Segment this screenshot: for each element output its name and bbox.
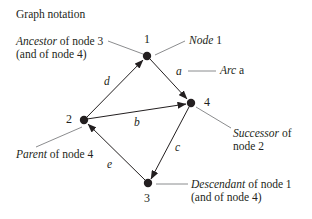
leader-successor bbox=[196, 107, 231, 128]
annotation-node1: Node 1 bbox=[189, 34, 222, 47]
leader-node1 bbox=[155, 41, 185, 55]
annotation-successor: Successor of node 2 bbox=[233, 127, 291, 153]
node-1 bbox=[143, 52, 151, 60]
leader-parent bbox=[36, 127, 82, 147]
leader-ancestor bbox=[108, 41, 143, 54]
annotation-parent: Parent of node 4 bbox=[16, 148, 93, 161]
node-3 bbox=[144, 179, 152, 187]
node-label-2: 2 bbox=[66, 113, 72, 126]
arc-label-a: a bbox=[176, 65, 182, 78]
arc-label-d: d bbox=[104, 75, 110, 88]
node-label-1: 1 bbox=[144, 33, 150, 46]
arc-e bbox=[88, 124, 145, 180]
annotation-descendant: Descendant of node 1 (and of node 4) bbox=[191, 178, 292, 204]
node-label-3: 3 bbox=[144, 192, 150, 205]
annotation-arc-a: Arc a bbox=[220, 64, 244, 77]
annotation-ancestor: Ancestor of node 3 (and of node 4) bbox=[16, 35, 103, 61]
diagram-title: Graph notation bbox=[16, 8, 85, 21]
arc-label-c: c bbox=[175, 141, 180, 154]
node-4 bbox=[187, 99, 195, 107]
arc-c bbox=[151, 107, 189, 179]
arc-label-e: e bbox=[107, 158, 112, 171]
node-2 bbox=[80, 116, 88, 124]
node-label-4: 4 bbox=[204, 96, 210, 109]
arc-d bbox=[86, 60, 143, 118]
arc-label-b: b bbox=[134, 116, 140, 129]
